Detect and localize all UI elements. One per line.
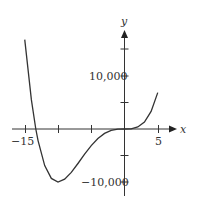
x-axis-label: x <box>180 123 187 136</box>
x-tick-label-max: 5 <box>155 135 162 148</box>
x-axis-arrow-icon <box>169 126 177 133</box>
y-axis-arrow-icon <box>121 30 128 38</box>
y-axis-label: y <box>120 15 128 28</box>
y-tick-label-pos: 10,000 <box>89 70 128 83</box>
chart: y x −15 5 10,000 −10,000 <box>0 0 198 207</box>
function-curve <box>25 40 158 182</box>
x-tick-label-min: −15 <box>11 135 34 148</box>
y-tick-label-neg: −10,000 <box>81 176 129 189</box>
